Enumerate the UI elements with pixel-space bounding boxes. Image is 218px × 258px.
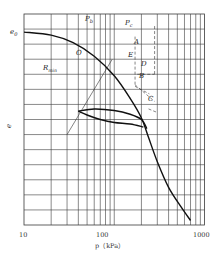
label-rmin: Rmin — [42, 64, 57, 73]
label-a: A — [133, 38, 139, 46]
label-pb: Pb — [84, 15, 93, 24]
y-axis-label: e — [5, 124, 13, 128]
label-d: D — [140, 60, 147, 68]
tangent-line-e — [135, 86, 149, 94]
label-c: C — [148, 95, 154, 103]
series-group — [24, 32, 191, 220]
series-line-virgin-compression-curve — [24, 32, 191, 220]
label-e0: e0 — [10, 28, 18, 37]
x-axis-label: p（kPa） — [95, 242, 125, 250]
x-tick-10: 10 — [19, 231, 27, 239]
line-b — [149, 109, 156, 112]
label-pc: Pc — [124, 19, 133, 28]
construction-lines — [67, 26, 156, 135]
label-b: B — [138, 72, 144, 80]
grid — [24, 14, 205, 225]
x-tick-100: 100 — [96, 231, 108, 239]
x-tick-1000: 1000 — [193, 231, 210, 239]
label-o: O — [76, 49, 82, 57]
series-line-unloading-curve — [78, 111, 143, 127]
label-e: E — [127, 51, 133, 59]
chart: e0 Pb Pc O A E D B C Rmin e 10 100 1000 … — [0, 0, 218, 258]
